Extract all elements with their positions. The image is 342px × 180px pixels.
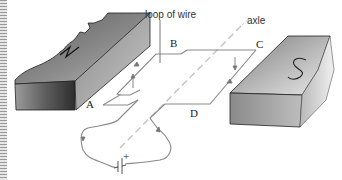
- corner-c-label: C: [256, 38, 263, 50]
- battery-positive-label: +: [123, 150, 129, 162]
- motor-diagram: + loop of wire axle A B C D: [0, 0, 342, 180]
- loop-of-wire-label: loop of wire: [145, 9, 197, 20]
- axle-label: axle: [247, 15, 266, 26]
- corner-d-label: D: [190, 107, 198, 119]
- corner-a-label: A: [86, 98, 94, 110]
- corner-b-label: B: [170, 37, 177, 49]
